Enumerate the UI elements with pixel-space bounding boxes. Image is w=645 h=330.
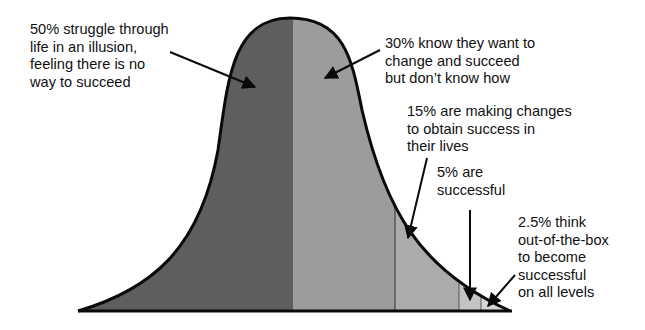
arrow-out-of-box bbox=[488, 275, 515, 306]
label-struggle: 50% struggle through life in an illusion… bbox=[30, 21, 169, 91]
label-successful: 5% are successful bbox=[437, 164, 505, 199]
arrow-making-changes bbox=[408, 158, 427, 238]
label-making-changes: 15% are making changes to obtain success… bbox=[407, 103, 572, 156]
label-know-want: 30% know they want to change and succeed… bbox=[385, 35, 535, 88]
label-out-of-box: 2.5% think out-of-the-box to become succ… bbox=[518, 214, 609, 302]
